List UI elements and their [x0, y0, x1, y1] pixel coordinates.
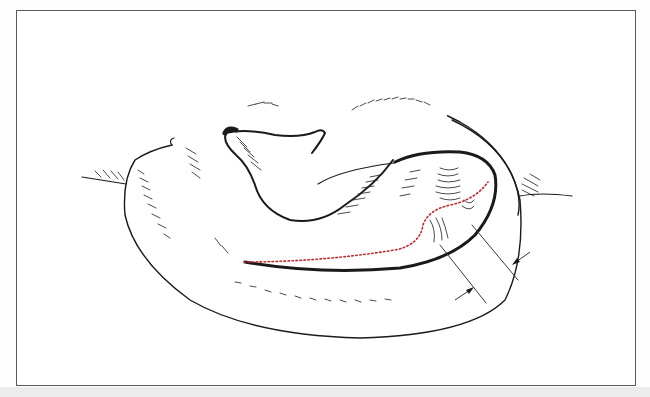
outer-helix-outline	[124, 116, 521, 338]
antihelix-inner-rim	[245, 152, 496, 271]
skin-line-left	[82, 170, 126, 184]
ear-illustration	[0, 0, 650, 397]
concha-outline	[225, 134, 393, 221]
upper-hatching	[248, 97, 430, 110]
concha-hatching	[237, 137, 380, 214]
measurement-arrow-lower	[455, 287, 474, 300]
measurement-arrow-upper	[512, 252, 530, 265]
skin-line-right	[520, 174, 572, 196]
page	[0, 0, 650, 397]
left-hatching	[138, 148, 200, 238]
fossa-hatching	[400, 168, 460, 200]
measurement-lines	[440, 225, 518, 303]
antitragus-hatching	[430, 200, 474, 242]
